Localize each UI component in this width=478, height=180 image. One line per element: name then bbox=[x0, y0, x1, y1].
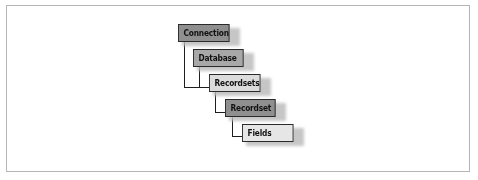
connector-connection-recordsets bbox=[184, 42, 185, 88]
node-database: Database bbox=[193, 49, 244, 67]
node-connection: Connection bbox=[178, 24, 230, 42]
node-recordsets: Recordsets bbox=[209, 74, 261, 92]
node-recordset: Recordset bbox=[225, 99, 276, 117]
node-fields: Fields bbox=[242, 124, 294, 142]
connector-connection-recordsets-horizontal bbox=[184, 87, 210, 88]
